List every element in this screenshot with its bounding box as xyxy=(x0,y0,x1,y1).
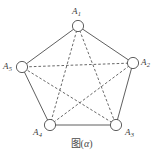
caption-cjk-char: 图 xyxy=(71,138,81,149)
edge-a1-a3 xyxy=(78,26,116,125)
edge-a2-a3 xyxy=(116,63,133,125)
vertex-label-a4: A4 xyxy=(33,128,42,137)
vertex-label-a5: A5 xyxy=(3,62,12,71)
vertex-label-a1-sub: 1 xyxy=(78,10,81,17)
figure-container: A1 A2 A3 A4 A5 图(α) xyxy=(0,0,163,159)
vertex-node-a5 xyxy=(16,61,27,72)
dashed-diagonals-group xyxy=(22,26,133,125)
pentagon-graph-svg xyxy=(0,0,163,159)
vertex-label-a1: A1 xyxy=(72,7,81,16)
vertex-label-a3-base: A xyxy=(125,127,131,137)
edge-a5-a1 xyxy=(22,26,78,67)
vertex-label-a3-sub: 3 xyxy=(131,131,134,138)
figure-caption: 图(α) xyxy=(0,138,163,150)
edge-a2-a5 xyxy=(22,63,133,67)
vertex-label-a2-base: A xyxy=(141,57,147,67)
edge-a1-a2 xyxy=(78,26,133,63)
vertex-node-a2 xyxy=(127,57,138,68)
vertex-nodes-group xyxy=(16,20,138,130)
vertex-label-a2-sub: 2 xyxy=(147,61,150,68)
vertex-node-a3 xyxy=(110,119,121,130)
edge-a1-a4 xyxy=(50,26,78,125)
vertex-label-a4-sub: 4 xyxy=(39,131,42,138)
vertex-node-a4 xyxy=(44,119,55,130)
caption-paren-close: ) xyxy=(89,138,92,149)
vertex-label-a5-base: A xyxy=(3,61,9,71)
edge-a2-a4 xyxy=(50,63,133,125)
vertex-node-a1 xyxy=(72,20,83,31)
vertex-label-a2: A2 xyxy=(141,58,150,67)
vertex-label-a3: A3 xyxy=(125,128,134,137)
vertex-label-a5-sub: 5 xyxy=(9,65,12,72)
vertex-label-a4-base: A xyxy=(33,127,39,137)
vertex-label-a1-base: A xyxy=(72,6,78,16)
